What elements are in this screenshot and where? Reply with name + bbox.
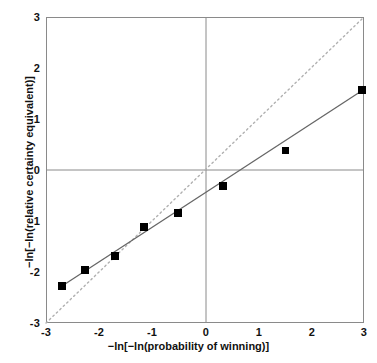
- data-point: [358, 86, 366, 94]
- data-point: [140, 223, 148, 231]
- data-point: [58, 282, 66, 290]
- data-point: [111, 252, 119, 260]
- chart-canvas: [0, 0, 377, 363]
- x-tick-label: -3: [33, 326, 59, 338]
- chart-figure: 3 2 1 0 -1 -2 -3 -3 -2 -1 0 1 2 3 −ln[−l…: [0, 0, 377, 363]
- data-point: [282, 147, 289, 154]
- x-tick-label: 3: [351, 326, 377, 338]
- data-point: [174, 209, 182, 217]
- data-point: [219, 182, 227, 190]
- x-tick-label: 2: [299, 326, 325, 338]
- data-point: [81, 266, 89, 274]
- y-tick-label: 3: [14, 11, 40, 23]
- y-axis-title: −ln[−ln(relative certainty equivalent)]: [23, 47, 35, 297]
- fitted-line: [62, 90, 363, 286]
- x-tick-label: 0: [193, 326, 219, 338]
- x-tick-label: 1: [246, 326, 272, 338]
- x-tick-label: -2: [86, 326, 112, 338]
- x-tick-label: -1: [139, 326, 165, 338]
- x-axis-title: −ln[−ln(probability of winning)]: [0, 340, 377, 352]
